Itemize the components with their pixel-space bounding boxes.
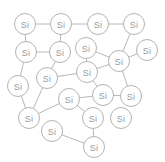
atom-node: Si	[51, 14, 72, 35]
atom-label: Si	[25, 114, 33, 124]
bond-line	[38, 104, 59, 114]
atom-node: Si	[121, 86, 142, 107]
atom-label: Si	[22, 48, 30, 58]
atoms-layer: SiSiSiSiSiSiSiSiSiSiSiSiSiSiSiSiSiSiSiSi	[8, 14, 158, 158]
atom-label: Si	[21, 20, 29, 30]
amorphous-silicon-diagram: SiSiSiSiSiSiSiSiSiSiSiSiSiSiSiSiSiSiSiSi	[0, 0, 165, 162]
atom-node: Si	[50, 42, 71, 63]
bond-line	[93, 81, 97, 87]
atom-label: Si	[115, 57, 123, 67]
bond-line	[97, 64, 109, 68]
atom-node: Si	[19, 108, 40, 129]
atom-node: Si	[42, 121, 63, 142]
atom-label: Si	[57, 20, 65, 30]
atom-node: Si	[77, 62, 98, 83]
atom-node: Si	[76, 38, 97, 59]
atom-node: Si	[109, 51, 130, 72]
atom-node: Si	[16, 42, 37, 63]
bond-line	[96, 52, 109, 57]
atom-label: Si	[56, 48, 64, 58]
atom-node: Si	[8, 76, 29, 97]
atom-node: Si	[59, 89, 80, 110]
atom-node: Si	[111, 108, 132, 129]
bond-line	[57, 74, 76, 77]
atom-node: Si	[137, 40, 158, 61]
atom-node: Si	[37, 68, 58, 89]
atom-label: Si	[43, 74, 51, 84]
atom-node: Si	[84, 137, 105, 158]
atom-node: Si	[83, 108, 104, 129]
atom-label: Si	[117, 114, 125, 124]
atom-label: Si	[83, 68, 91, 78]
bond-line	[123, 34, 130, 52]
atom-node: Si	[93, 85, 114, 106]
network-svg: SiSiSiSiSiSiSiSiSiSiSiSiSiSiSiSiSiSiSiSi	[0, 0, 165, 162]
atom-label: Si	[65, 95, 73, 105]
atom-node: Si	[88, 14, 109, 35]
atom-label: Si	[14, 82, 22, 92]
bond-line	[79, 96, 92, 98]
atom-label: Si	[99, 91, 107, 101]
bond-line	[77, 106, 85, 112]
atom-label: Si	[143, 46, 151, 56]
bond-line	[21, 96, 25, 108]
atom-node: Si	[15, 14, 36, 35]
atom-label: Si	[94, 20, 102, 30]
bond-line	[62, 135, 84, 144]
bond-line	[33, 88, 42, 109]
bond-line	[52, 61, 56, 68]
atom-label: Si	[127, 92, 135, 102]
atom-label: Si	[82, 44, 90, 54]
atom-label: Si	[130, 20, 138, 30]
bond-line	[122, 71, 127, 86]
atom-node: Si	[124, 14, 145, 35]
bond-line	[129, 54, 137, 57]
atom-label: Si	[48, 127, 56, 137]
atom-label: Si	[89, 114, 97, 124]
bond-line	[20, 62, 23, 76]
atom-label: Si	[90, 143, 98, 153]
